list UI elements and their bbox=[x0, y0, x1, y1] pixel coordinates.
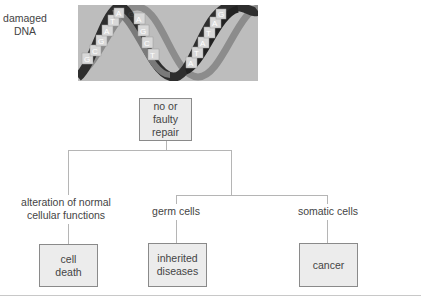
connector-somatic-to-cancer bbox=[327, 220, 328, 244]
dna-label-line1: damaged bbox=[2, 12, 48, 25]
dna-helix-image: GCG ATA G AGCT ATA TAG bbox=[78, 5, 258, 81]
svg-text:T: T bbox=[150, 51, 155, 60]
germ-cells-label: germ cells bbox=[146, 205, 206, 218]
cell-death-box: cell death bbox=[39, 244, 98, 287]
connector-to-cells-branch bbox=[231, 150, 232, 195]
svg-text:C: C bbox=[92, 47, 98, 56]
dna-label-line2: DNA bbox=[2, 25, 48, 38]
svg-text:C: C bbox=[144, 39, 150, 48]
svg-text:A: A bbox=[212, 19, 218, 28]
repair-line1: no or bbox=[152, 100, 179, 113]
cancer-label: cancer bbox=[313, 259, 345, 272]
connector-to-somatic bbox=[327, 195, 328, 204]
somatic-cells-label: somatic cells bbox=[291, 205, 365, 218]
svg-text:T: T bbox=[110, 17, 115, 26]
inherited-diseases-box: inherited diseases bbox=[148, 243, 207, 287]
svg-text:G: G bbox=[98, 37, 104, 46]
svg-text:G: G bbox=[84, 55, 90, 64]
svg-text:A: A bbox=[136, 15, 142, 24]
repair-line2: faulty bbox=[152, 113, 179, 126]
svg-text:A: A bbox=[188, 59, 194, 68]
svg-text:T: T bbox=[194, 49, 199, 58]
no-or-faulty-repair-box: no or faulty repair bbox=[139, 98, 192, 141]
cell-death-line1: cell bbox=[55, 253, 81, 266]
svg-text:G: G bbox=[140, 27, 146, 36]
svg-text:A: A bbox=[200, 39, 206, 48]
damaged-dna-label: damaged DNA bbox=[2, 12, 48, 38]
alteration-label: alteration of normal cellular functions bbox=[6, 196, 126, 222]
alteration-line2: cellular functions bbox=[6, 209, 126, 222]
cancer-box: cancer bbox=[299, 243, 358, 287]
connector-to-germ bbox=[176, 195, 177, 204]
inherited-line2: diseases bbox=[157, 265, 198, 278]
dna-helix-icon: GCG ATA G AGCT ATA TAG bbox=[78, 5, 258, 81]
connector-branch-top bbox=[68, 150, 232, 151]
repair-line3: repair bbox=[152, 126, 179, 139]
connector-alteration-to-death bbox=[68, 224, 69, 244]
svg-text:A: A bbox=[104, 27, 110, 36]
cell-death-line2: death bbox=[55, 266, 81, 279]
svg-text:T: T bbox=[206, 29, 211, 38]
svg-text:G: G bbox=[128, 10, 134, 19]
connector-germ-to-inherited bbox=[176, 220, 177, 244]
inherited-line1: inherited bbox=[157, 252, 198, 265]
bottom-rule bbox=[0, 295, 421, 296]
svg-text:G: G bbox=[218, 10, 224, 19]
connector-to-alteration bbox=[68, 150, 69, 195]
connector-branch-cells bbox=[176, 195, 328, 196]
connector-repair-down bbox=[166, 141, 167, 150]
alteration-line1: alteration of normal bbox=[6, 196, 126, 209]
svg-text:A: A bbox=[116, 9, 122, 18]
